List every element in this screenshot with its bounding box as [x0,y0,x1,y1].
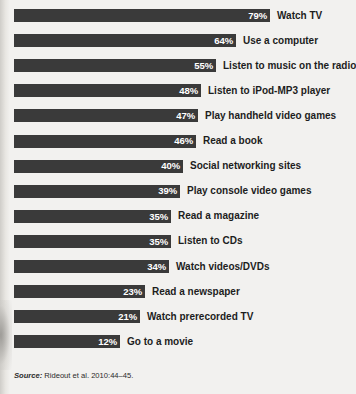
bar: 40% [14,160,183,173]
bar: 12% [14,335,120,348]
bar: 21% [14,310,140,323]
bar-row: 47%Play handheld video games [0,108,354,123]
bar-value-label: 47% [176,111,195,121]
bar-row: 79%Watch TV [0,8,354,23]
bar-value-label: 39% [158,186,177,196]
bar-category-label: Use a computer [243,36,318,46]
bar-row: 64%Use a computer [0,33,354,48]
bar-category-label: Watch videos/DVDs [176,262,270,272]
bar: 55% [14,59,216,72]
bar-row: 34%Watch videos/DVDs [0,259,354,274]
bar: 64% [14,34,236,47]
bar-row: 40%Social networking sites [0,159,354,174]
bar: 35% [14,235,171,248]
bar: 79% [14,9,270,22]
bar-row: 35%Read a magazine [0,209,354,224]
bar-category-label: Go to a movie [127,337,193,347]
bar: 46% [14,135,196,148]
source-citation: Rideout et al. 2010:44–45. [44,371,133,380]
bar-category-label: Listen to CDs [178,236,242,246]
bar-row: 39%Play console video games [0,184,354,199]
bar-category-label: Watch prerecorded TV [147,312,253,322]
bar-value-label: 35% [149,212,168,222]
bar: 47% [14,109,198,122]
bar-value-label: 12% [98,337,117,347]
bar-value-label: 48% [179,86,198,96]
bar: 34% [14,260,169,273]
source-label: Source: [14,371,42,380]
bar-row: 12%Go to a movie [0,334,354,349]
bar-value-label: 34% [147,262,166,272]
bar: 23% [14,285,145,298]
bar-row: 48%Listen to iPod-MP3 player [0,83,354,98]
bar-category-label: Read a newspaper [152,287,240,297]
bar: 39% [14,185,180,198]
bar-row: 21%Watch prerecorded TV [0,309,354,324]
bar-value-label: 23% [123,287,142,297]
bar-value-label: 21% [118,312,137,322]
bar-category-label: Listen to iPod-MP3 player [208,86,330,96]
bar-value-label: 64% [214,36,233,46]
bar-row: 55%Listen to music on the radio [0,58,354,73]
horizontal-bar-chart: 79%Watch TV64%Use a computer55%Listen to… [0,0,354,360]
bar-category-label: Watch TV [277,11,322,21]
bar-row: 23%Read a newspaper [0,284,354,299]
bar-value-label: 35% [149,237,168,247]
bar-category-label: Social networking sites [190,161,301,171]
bar-row: 46%Read a book [0,134,354,149]
bar: 48% [14,84,201,97]
bar-category-label: Listen to music on the radio [223,61,356,71]
bar: 35% [14,210,171,223]
bar-value-label: 40% [161,161,180,171]
source-note: Source:Rideout et al. 2010:44–45. [14,372,133,380]
bar-value-label: 55% [194,61,213,71]
bar-row: 35%Listen to CDs [0,234,354,249]
bar-category-label: Play console video games [187,186,312,196]
bar-value-label: 46% [174,136,193,146]
bar-category-label: Read a book [203,136,262,146]
bar-value-label: 79% [248,11,267,21]
bar-category-label: Play handheld video games [205,111,336,121]
bar-category-label: Read a magazine [178,211,259,221]
